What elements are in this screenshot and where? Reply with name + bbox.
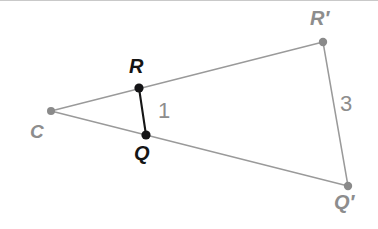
geometry-figure: CRQR′Q′13 xyxy=(0,0,378,229)
vertex-label-qp: Q′ xyxy=(334,192,354,212)
ray-c-rprime xyxy=(51,42,323,111)
vertex-dots-layer xyxy=(47,38,352,190)
vertex-dot-r xyxy=(134,83,143,92)
measure-label-length-rq: 1 xyxy=(158,100,170,122)
vertex-dot-c xyxy=(47,107,55,115)
figure-canvas xyxy=(0,0,378,229)
segments-layer xyxy=(51,42,348,186)
measure-label-length-rprimeqprime: 3 xyxy=(340,93,352,115)
seg-r-q xyxy=(139,88,146,135)
vertex-label-c: C xyxy=(30,122,44,141)
vertex-label-rp: R′ xyxy=(310,8,329,28)
vertex-label-q: Q xyxy=(134,143,150,163)
vertex-dot-qp xyxy=(344,182,352,190)
vertex-dot-rp xyxy=(319,38,327,46)
vertex-label-r: R xyxy=(129,56,143,76)
ray-c-qprime xyxy=(51,111,348,186)
vertex-dot-q xyxy=(141,130,150,139)
